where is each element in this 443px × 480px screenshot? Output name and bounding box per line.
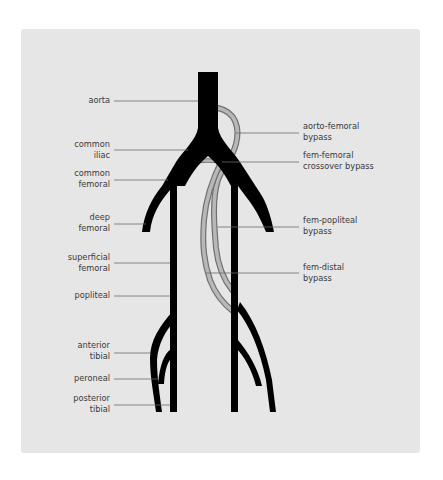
right-anterior-tibial-shape <box>237 302 276 412</box>
diagram-stage: aorta common iliac common femoral deep f… <box>0 0 443 480</box>
label-popliteal: popliteal <box>10 290 110 301</box>
label-aorto-femoral-bypass: aorto-femoral bypass <box>303 121 423 143</box>
label-fem-popliteal-bypass: fem-popliteal bypass <box>303 215 423 237</box>
label-superficial-femoral: superficial femoral <box>10 252 110 274</box>
label-peroneal: peroneal <box>10 373 110 384</box>
label-deep-femoral: deep femoral <box>10 212 110 234</box>
arteries <box>142 72 276 412</box>
label-fem-distal-bypass: fem-distal bypass <box>303 262 423 284</box>
label-common-iliac: common iliac <box>10 139 110 161</box>
label-anterior-tibial: anterior tibial <box>10 340 110 362</box>
aorta-shape <box>142 72 274 412</box>
label-posterior-tibial: posterior tibial <box>10 393 110 415</box>
label-common-femoral: common femoral <box>10 168 110 190</box>
label-fem-femoral-crossover-bypass: fem-femoral crossover bypass <box>303 150 423 172</box>
label-aorta: aorta <box>10 95 110 106</box>
